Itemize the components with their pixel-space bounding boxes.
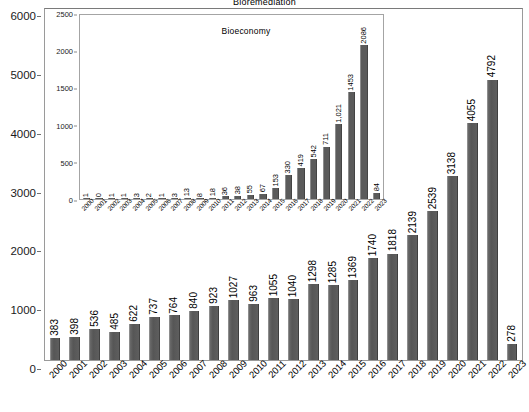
inset-bar-value-label: 330 (284, 161, 292, 174)
x-tick-slot: 2003 (104, 363, 124, 411)
inset-bar-slot: 542 (307, 15, 320, 199)
x-tick-slot: 2000 (44, 363, 64, 411)
x-tick-slot: 2008 (204, 363, 224, 411)
y-tick-label: 4000 (10, 128, 36, 140)
inset-bar-value-label: 1,021 (335, 104, 343, 123)
inset-x-tick-slot: 2006 (155, 201, 168, 227)
inset-bar-value-label: 18 (209, 188, 217, 196)
inset-x-tick-slot: 2016 (282, 201, 295, 227)
x-tick-slot: 2011 (263, 363, 283, 411)
inset-bar-slot: 1 (105, 15, 118, 199)
x-tick-slot: 2002 (84, 363, 104, 411)
bar-value-label: 737 (149, 298, 159, 315)
inset-bar-slot: 330 (282, 15, 295, 199)
inset-y-tick-mark (74, 51, 77, 52)
inset-x-tick-slot: 2004 (130, 201, 143, 227)
bar-value-label: 3138 (447, 152, 457, 174)
inset-x-tick-slot: 2013 (244, 201, 257, 227)
inset-bar-slot: 3 (168, 15, 181, 199)
inset-bar (272, 188, 279, 199)
x-tick-slot: 2006 (164, 363, 184, 411)
x-tick-slot: 2004 (124, 363, 144, 411)
inset-x-tick-slot: 2008 (181, 201, 194, 227)
bar-value-label: 1285 (328, 261, 338, 283)
bar (109, 332, 120, 360)
bar-value-label: 383 (50, 319, 60, 336)
bar (427, 211, 438, 360)
bar-value-label: 1818 (388, 229, 398, 251)
inset-y-tick-label: 500 (60, 158, 73, 167)
bar-value-label: 1740 (368, 234, 378, 256)
x-tick-slot: 2014 (323, 363, 343, 411)
inset-x-tick-slot: 2010 (206, 201, 219, 227)
inset-bar-slot: 0 (93, 15, 106, 199)
inset-bar-value-label: 67 (259, 184, 267, 192)
inset-bar (373, 193, 380, 199)
bar-value-label: 840 (189, 292, 199, 309)
bar (189, 311, 200, 360)
inset-bar-slot: 18 (206, 15, 219, 199)
inset-x-tick-slot: 2007 (168, 201, 181, 227)
bar-value-label: 1369 (348, 256, 358, 278)
bar-value-label: 1040 (288, 275, 298, 297)
bar (507, 344, 518, 360)
y-tick-mark (37, 134, 41, 135)
inset-bar-value-label: 13 (183, 188, 191, 196)
y-tick-mark (37, 369, 41, 370)
inset-y-tick-mark (74, 200, 77, 201)
inset-bar-series: 1011321313818363855671533304195427111,02… (80, 15, 383, 199)
inset-y-tick-mark (74, 14, 77, 15)
bar-slot: 4792 (482, 9, 502, 360)
inset-x-tick-slot: 2018 (308, 201, 321, 227)
inset-bar-value-label: 36 (221, 187, 229, 195)
bar-value-label: 1298 (308, 260, 318, 282)
bar-value-label: 278 (507, 325, 517, 342)
bar-value-label: 536 (90, 310, 100, 327)
bar (467, 123, 478, 360)
inset-x-tick-slot: 2001 (92, 201, 105, 227)
x-tick-slot: 2018 (403, 363, 423, 411)
inset-bar-value-label: 8 (196, 193, 204, 197)
bar-slot: 1818 (383, 9, 403, 360)
bar (368, 258, 379, 360)
inset-y-tick-label: 2500 (56, 10, 73, 19)
x-tick-slot: 2020 (443, 363, 463, 411)
inset-bar (335, 124, 342, 199)
inset-plot-area: Bioeconomy 10113213138183638556715333041… (79, 14, 384, 200)
x-tick-slot: 2010 (244, 363, 264, 411)
inset-bar-value-label: 3 (171, 193, 179, 197)
inset-x-tick-slot: 2000 (79, 201, 92, 227)
inset-x-tick-slot: 2011 (219, 201, 232, 227)
inset-x-axis: 2000200120022003200420052006200720082009… (79, 201, 384, 227)
inset-bar-value-label: 3 (133, 193, 141, 197)
bar (387, 254, 398, 360)
bar (69, 337, 80, 360)
bar (149, 317, 160, 360)
bar-value-label: 485 (110, 313, 120, 330)
inset-bar-slot: 153 (269, 15, 282, 199)
inset-x-tick-slot: 2012 (231, 201, 244, 227)
bar (209, 306, 220, 360)
inset-x-tick-slot: 2002 (104, 201, 117, 227)
y-tick-label: 6000 (10, 10, 36, 22)
y-tick-mark (37, 75, 41, 76)
inset-y-tick-label: 2000 (56, 47, 73, 56)
inset-bar-slot: 2086 (358, 15, 371, 199)
y-tick-label: 2000 (10, 245, 36, 257)
x-tick-slot: 2013 (303, 363, 323, 411)
inset-bar (360, 45, 367, 199)
inset-y-tick-mark (74, 88, 77, 89)
inset-y-tick-label: 0 (69, 196, 73, 205)
inset-bar-value-label: 711 (322, 133, 330, 145)
bar-value-label: 398 (70, 318, 80, 335)
bar (407, 235, 418, 360)
x-tick-slot: 2019 (423, 363, 443, 411)
x-tick-slot: 2016 (363, 363, 383, 411)
y-tick-mark (37, 251, 41, 252)
inset-bar (348, 92, 355, 199)
bar-value-label: 764 (169, 297, 179, 314)
inset-bar-slot: 2 (143, 15, 156, 199)
inset-chart: 05001000150020002500 Bioeconomy 10113213… (52, 14, 384, 226)
inset-x-tick-slot: 2005 (143, 201, 156, 227)
inset-bar-value-label: 1 (158, 193, 166, 197)
